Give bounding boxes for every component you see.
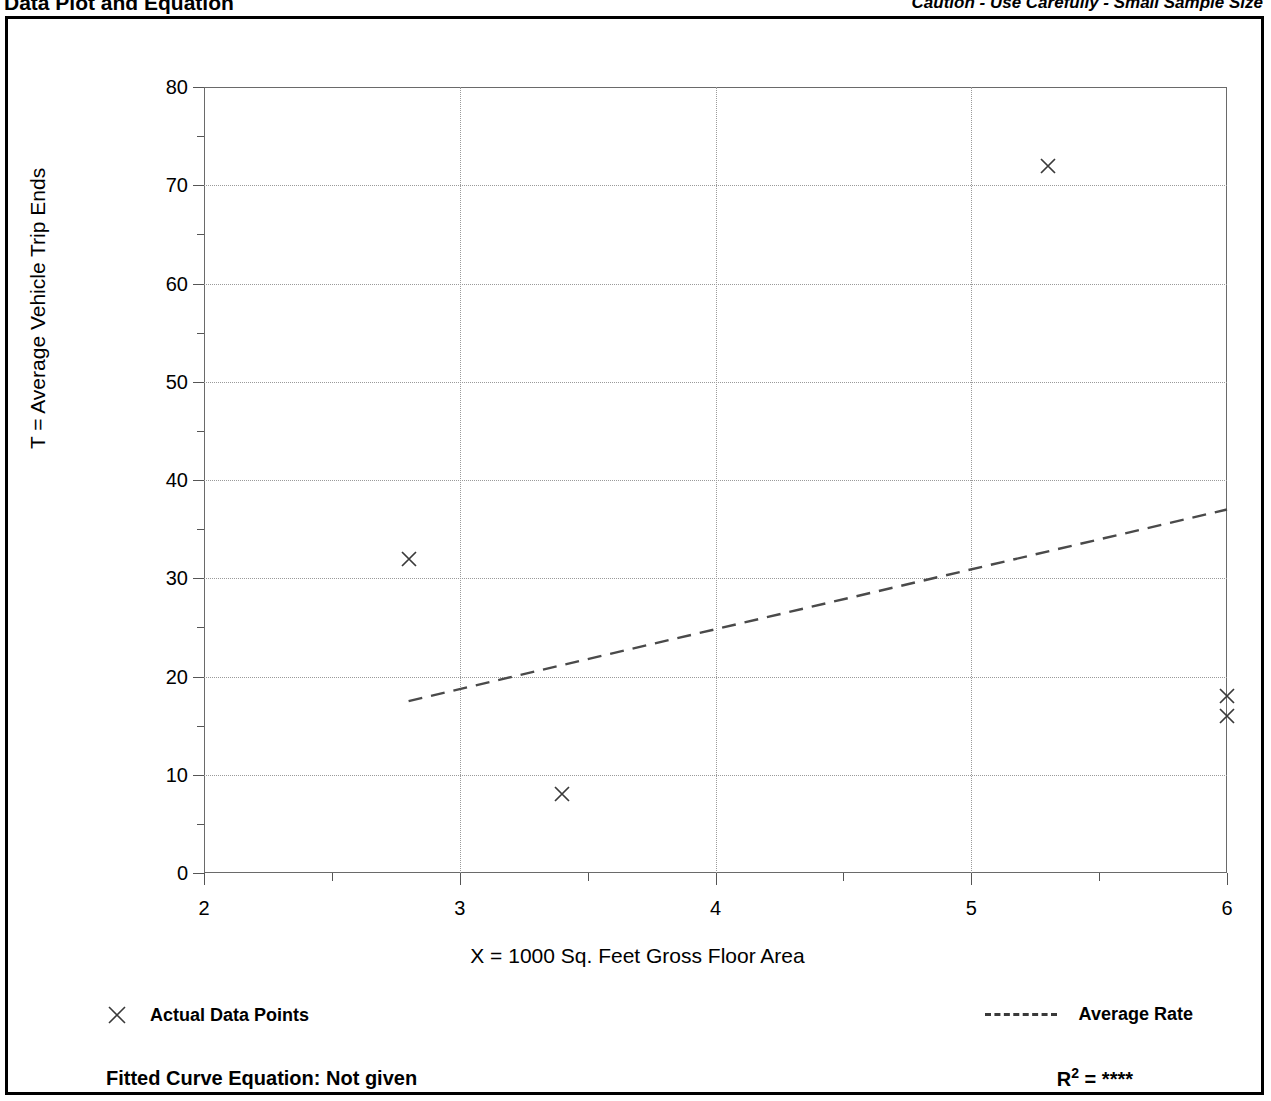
y-axis-minor-tick: [197, 333, 204, 334]
x-axis-tick-label: 6: [1221, 897, 1232, 920]
plot-area: 0102030405060708023456: [204, 87, 1227, 873]
average-rate-line: [204, 87, 1227, 873]
caution-note: Caution - Use Carefully - Small Sample S…: [912, 0, 1263, 13]
x-axis-tick: [971, 873, 972, 885]
r-squared-equals: =: [1079, 1068, 1102, 1090]
y-axis-tick: [193, 775, 204, 776]
y-axis-minor-tick: [197, 824, 204, 825]
y-axis-tick-label: 70: [166, 174, 188, 197]
data-point-marker: [551, 783, 573, 805]
x-axis-tick-label: 3: [454, 897, 465, 920]
y-axis-tick-label: 50: [166, 370, 188, 393]
x-axis-minor-tick: [332, 873, 333, 881]
y-axis-tick: [193, 382, 204, 383]
r-squared-exponent: 2: [1071, 1065, 1079, 1081]
legend-actual-data-points: Actual Data Points: [106, 1004, 309, 1026]
y-axis-minor-tick: [197, 627, 204, 628]
y-axis-tick-label: 20: [166, 665, 188, 688]
data-point-marker: [1037, 155, 1059, 177]
legend-average-rate: Average Rate: [985, 1004, 1193, 1025]
y-axis-minor-tick: [197, 234, 204, 235]
y-axis-tick: [193, 185, 204, 186]
y-axis-tick-label: 0: [177, 862, 188, 885]
data-point-marker: [398, 548, 420, 570]
r-squared-symbol: R: [1057, 1068, 1071, 1090]
y-axis-tick: [193, 578, 204, 579]
x-axis-tick: [204, 873, 205, 885]
y-axis-tick-label: 80: [166, 76, 188, 99]
y-axis-tick: [193, 284, 204, 285]
x-axis-tick-label: 4: [710, 897, 721, 920]
y-axis-tick-label: 60: [166, 272, 188, 295]
y-axis-minor-tick: [197, 431, 204, 432]
y-axis-tick-label: 40: [166, 469, 188, 492]
x-axis-tick: [716, 873, 717, 885]
y-axis-tick: [193, 480, 204, 481]
data-point-marker: [1216, 705, 1238, 727]
y-axis-minor-tick: [197, 529, 204, 530]
fitted-curve-equation: Fitted Curve Equation: Not given: [106, 1067, 417, 1090]
dashed-line-icon: [985, 1013, 1057, 1016]
y-axis-tick-label: 30: [166, 567, 188, 590]
y-axis-minor-tick: [197, 726, 204, 727]
y-axis-tick: [193, 87, 204, 88]
x-axis-tick: [1227, 873, 1228, 885]
y-axis-title: T = Average Vehicle Trip Ends: [26, 409, 50, 449]
x-axis-minor-tick: [588, 873, 589, 881]
y-axis-tick-label: 10: [166, 763, 188, 786]
x-axis-tick-label: 2: [198, 897, 209, 920]
y-axis-tick: [193, 873, 204, 874]
y-axis-tick: [193, 677, 204, 678]
x-axis-tick: [460, 873, 461, 885]
legend-average-rate-label: Average Rate: [1079, 1004, 1193, 1025]
x-axis-tick-label: 5: [966, 897, 977, 920]
legend-actual-data-points-label: Actual Data Points: [150, 1005, 309, 1026]
chart-frame: T = Average Vehicle Trip Ends X = 1000 S…: [5, 16, 1264, 1095]
page-title: Data Plot and Equation: [4, 0, 234, 15]
x-axis-minor-tick: [1099, 873, 1100, 881]
average-rate-trendline: [409, 509, 1227, 701]
r-squared-stars: ****: [1102, 1068, 1133, 1090]
x-marker-icon: [106, 1004, 128, 1026]
y-axis-minor-tick: [197, 136, 204, 137]
x-axis-title: X = 1000 Sq. Feet Gross Floor Area: [8, 944, 1267, 968]
x-axis-minor-tick: [843, 873, 844, 881]
r-squared-value: R2 = ****: [1057, 1065, 1133, 1091]
